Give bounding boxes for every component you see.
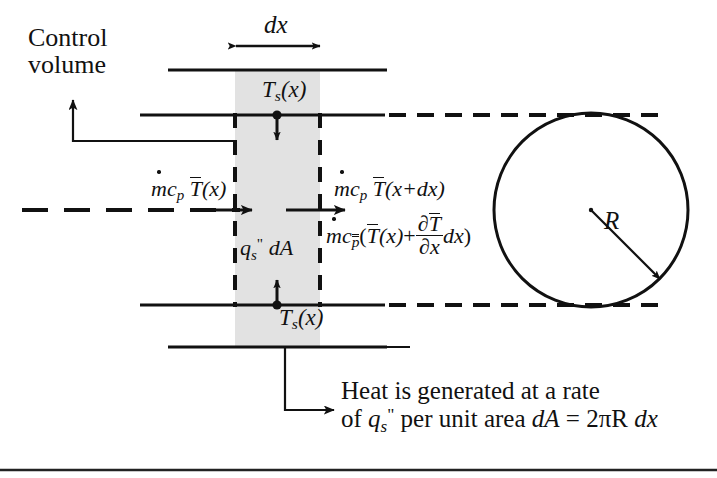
- control-volume-label: Control volume: [28, 24, 107, 79]
- control-volume-line1: Control: [28, 23, 107, 52]
- radius-arrow: [591, 210, 660, 279]
- figure-caption: Heat is generated at a rate of qs" per u…: [341, 378, 658, 435]
- caption-line-2: of qs" per unit area dA = 2πR dx: [341, 405, 658, 432]
- outflow-enthalpy-equation: mcp T(x+dx): [334, 177, 445, 204]
- dx-label: dx: [264, 12, 288, 38]
- surface-temperature-bottom-label: Ts(x): [279, 306, 323, 333]
- inflow-enthalpy-equation: mcp T(x): [151, 177, 226, 204]
- caption-line-1: Heat is generated at a rate: [341, 377, 600, 404]
- heat-transfer-control-volume-diagram: Control volume dx Ts(x) Ts(x) mcp T(x) m…: [0, 0, 717, 478]
- surface-heat-flux-label: qs" dA: [240, 236, 293, 263]
- outflow-expanded-equation: mcp(T(x)+∂T∂xdx): [326, 213, 471, 259]
- radius-label: R: [604, 208, 619, 234]
- surface-temperature-top-label: Ts(x): [262, 78, 306, 105]
- control-volume-line2: volume: [28, 50, 106, 79]
- control-volume-leader: [73, 100, 235, 141]
